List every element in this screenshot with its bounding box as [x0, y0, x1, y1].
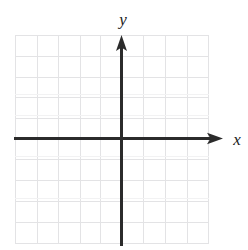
y-axis-label: y [115, 11, 131, 28]
coordinate-plane-figure [0, 0, 248, 250]
x-axis-label: x [229, 131, 245, 148]
